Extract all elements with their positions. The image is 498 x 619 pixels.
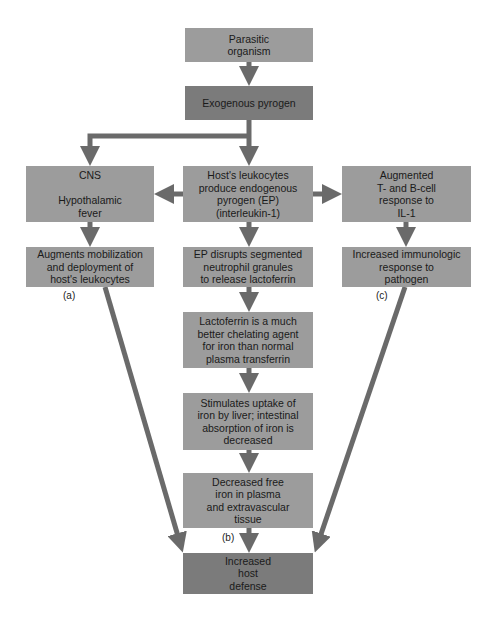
node-text: Stimulates uptake of iron by liver; inte…: [198, 397, 299, 447]
node-increased-host-defense: Increased host defense: [183, 553, 313, 594]
node-text: Parasitic organism: [227, 33, 270, 58]
node-host-leukocytes: Host's leukocytes produce endogenous pyr…: [183, 166, 313, 222]
node-text: Lactoferrin is a much better chelating a…: [198, 315, 299, 365]
node-ep-disrupts: EP disrupts segmented neutrophil granule…: [183, 247, 313, 287]
node-text: Increased host defense: [225, 555, 271, 593]
node-text: Host's leukocytes produce endogenous pyr…: [199, 169, 298, 219]
node-text: Exogenous pyrogen: [202, 97, 295, 110]
node-text: Decreased free iron in plasma and extrav…: [207, 476, 290, 526]
node-stimulates-uptake: Stimulates uptake of iron by liver; inte…: [183, 393, 313, 450]
node-text: CNS Hypothalamic fever: [58, 169, 122, 219]
node-lactoferrin: Lactoferrin is a much better chelating a…: [183, 312, 313, 368]
node-immunologic-response: Increased immunologic response to pathog…: [342, 247, 471, 287]
label-a: (a): [63, 290, 75, 301]
node-parasitic-organism: Parasitic organism: [185, 28, 313, 62]
node-augmented-tb-cell: Augmented T- and B-cell response to IL-1: [342, 166, 471, 222]
node-cns-fever: CNS Hypothalamic fever: [26, 166, 154, 222]
node-augments-mobilization: Augments mobilization and deployment of …: [26, 247, 154, 287]
node-text: Increased immunologic response to pathog…: [353, 248, 461, 286]
node-exogenous-pyrogen: Exogenous pyrogen: [185, 86, 313, 120]
node-text: EP disrupts segmented neutrophil granule…: [194, 248, 302, 286]
node-text: Augments mobilization and deployment of …: [37, 248, 143, 286]
label-b: (b): [222, 532, 234, 543]
label-c: (c): [376, 290, 388, 301]
node-text: Augmented T- and B-cell response to IL-1: [377, 169, 436, 219]
node-decreased-free-iron: Decreased free iron in plasma and extrav…: [183, 473, 313, 528]
